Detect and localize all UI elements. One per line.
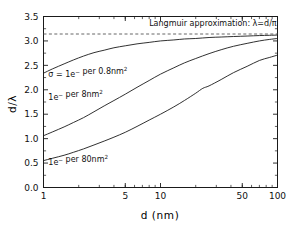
y-tick-label: 3.0 — [24, 36, 39, 46]
curve-sigma-8nm2 — [44, 38, 278, 135]
figure-container: 0.00.51.01.52.02.53.03.5 151050100 Langm… — [0, 0, 294, 228]
langmuir-approximation-label: Langmuir approximation: λ=d/π — [149, 19, 277, 28]
y-axis-tick-labels: 0.00.51.01.52.02.53.03.5 — [24, 12, 39, 193]
x-tick-label: 5 — [122, 191, 128, 201]
x-tick-label: 1 — [41, 191, 47, 201]
y-tick-label: 1.0 — [24, 134, 39, 144]
y-tick-label: 0.0 — [24, 183, 39, 193]
sigma-8nm2-label: 1e− per 8nm2 — [48, 89, 103, 102]
y-tick-label: 3.5 — [24, 12, 38, 22]
y-tick-label: 0.5 — [24, 158, 38, 168]
chart-canvas: 0.00.51.01.52.02.53.03.5 151050100 Langm… — [0, 0, 294, 228]
y-tick-label: 2.5 — [24, 61, 38, 71]
sigma-80nm2-label: 1e− per 80nm2 — [48, 154, 108, 167]
x-tick-label: 10 — [155, 191, 167, 201]
curve-sigma-0p8nm2 — [44, 35, 278, 73]
x-axis-title: d (nm) — [141, 209, 180, 221]
y-tick-label: 1.5 — [24, 109, 38, 119]
y-tick-label: 2.0 — [24, 85, 39, 95]
y-axis-title: d/λ — [6, 95, 18, 113]
sigma-0p8nm2-label: σ = 1e− per 0.8nm2 — [48, 66, 127, 79]
inline-annotations: Langmuir approximation: λ=d/πσ = 1e− per… — [48, 19, 276, 166]
x-tick-label: 50 — [237, 191, 249, 201]
x-tick-label: 100 — [269, 191, 286, 201]
x-axis-tick-labels: 151050100 — [41, 191, 287, 201]
